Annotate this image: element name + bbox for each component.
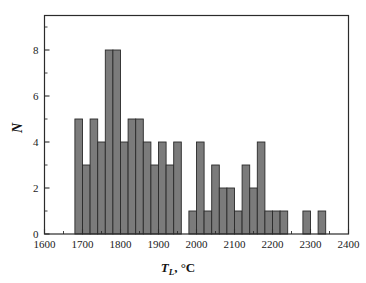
x-axis-title-unit: , °C [174,260,195,275]
histogram-bar [204,211,212,234]
histogram-plot: 1600170018001900200021002200230024000246… [0,0,366,283]
y-tick-label: 8 [33,44,39,56]
histogram-bar [273,211,281,234]
svg-text:TL, °C: TL, °C [161,260,196,277]
x-tick-label: 2000 [186,238,209,250]
histogram-bar [143,142,151,234]
histogram-bar [174,142,182,234]
x-axis-title: TL, °C [161,260,196,277]
histogram-bar [219,188,227,234]
x-tick-label: 1900 [148,238,171,250]
histogram-bar [128,119,136,234]
histogram-bar [151,165,159,234]
y-tick-label: 4 [33,136,39,148]
histogram-bar [159,142,167,234]
histogram-bar [75,119,83,234]
x-tick-label: 2400 [338,238,361,250]
y-tick-label: 6 [33,90,39,102]
histogram-bar [136,119,144,234]
histogram-bar [227,188,235,234]
histogram-bar [197,142,205,234]
histogram-bar [105,50,113,234]
x-tick-label: 1800 [110,238,133,250]
histogram-bar [250,188,258,234]
histogram-bar [189,211,197,234]
histogram-bar [166,165,174,234]
y-tick-label: 2 [33,182,39,194]
y-tick-label: 0 [33,228,39,240]
x-tick-label: 2300 [300,238,323,250]
histogram-bar [265,211,273,234]
histogram-bar [257,142,265,234]
histogram-bar [303,211,311,234]
histogram-bar [280,211,288,234]
histogram-bar [318,211,326,234]
histogram-figure: 1600170018001900200021002200230024000246… [0,0,366,283]
histogram-bar [235,211,243,234]
y-axis-title: N [10,122,25,134]
histogram-bar [121,142,129,234]
histogram-bar [212,165,220,234]
histogram-bar [242,165,250,234]
histogram-bar [83,165,91,234]
histogram-bar [113,50,121,234]
histogram-bar [98,142,106,234]
x-tick-label: 2200 [262,238,285,250]
histogram-bar [90,119,98,234]
x-tick-label: 2100 [224,238,247,250]
x-tick-label: 1700 [72,238,95,250]
y-axis-title-text: N [10,122,25,134]
